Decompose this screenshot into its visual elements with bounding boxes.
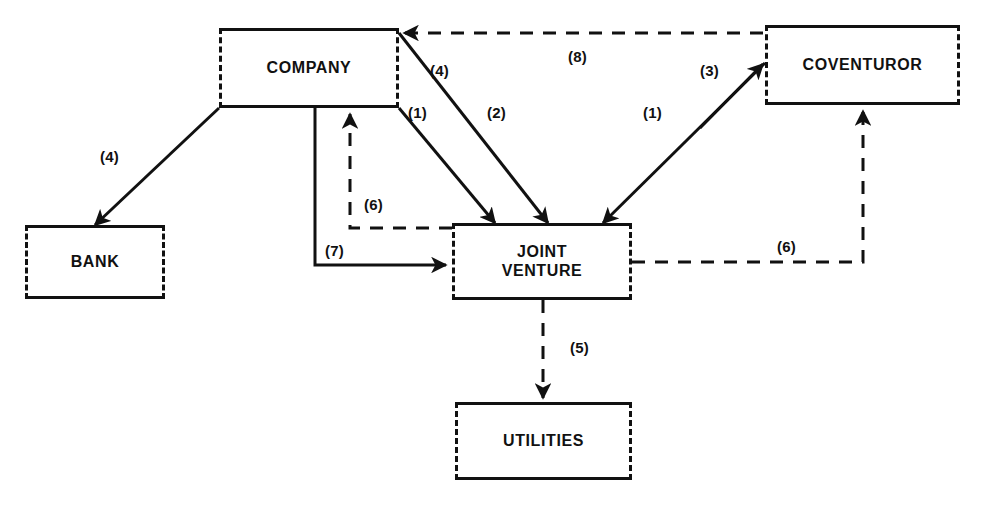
edge-company-to-bank — [95, 108, 219, 225]
edge-label-jv-company-6: (6) — [364, 196, 383, 213]
node-bank-label: BANK — [71, 253, 120, 271]
edge-label-company-jv-2: (2) — [487, 104, 506, 121]
node-coventuror[interactable]: COVENTUROR — [765, 25, 960, 105]
diagram-canvas: COMPANY COVENTUROR BANK JOINT VENTURE UT… — [0, 0, 984, 515]
edge-label-jv-coventuror-3: (3) — [700, 62, 719, 79]
edge-label-jv-utilities-5: (5) — [570, 339, 589, 356]
node-joint-venture-label: JOINT VENTURE — [502, 243, 583, 280]
edge-label-company-bank: (4) — [100, 148, 119, 165]
node-utilities[interactable]: UTILITIES — [455, 402, 632, 480]
edge-label-coventuror-jv-1: (1) — [643, 104, 662, 121]
edge-coventuror-to-jv — [603, 63, 765, 223]
edge-label-jv-coventuror-6: (6) — [777, 238, 796, 255]
node-company[interactable]: COMPANY — [219, 28, 399, 108]
edge-jv-to-coventuror-dashed — [632, 111, 863, 262]
node-utilities-label: UTILITIES — [503, 432, 584, 450]
edge-label-company-jv-1: (1) — [408, 104, 427, 121]
node-company-label: COMPANY — [267, 59, 352, 77]
edge-label-company-jv-7: (7) — [325, 242, 344, 259]
edge-company-to-jv-two — [399, 33, 548, 223]
node-joint-venture[interactable]: JOINT VENTURE — [452, 223, 632, 300]
edge-label-company-coventuror-4: (4) — [430, 62, 449, 79]
node-coventuror-label: COVENTUROR — [803, 56, 923, 74]
node-bank[interactable]: BANK — [25, 225, 165, 299]
edge-company-to-jv-one — [399, 108, 495, 223]
edge-label-coventuror-company-8: (8) — [568, 48, 587, 65]
